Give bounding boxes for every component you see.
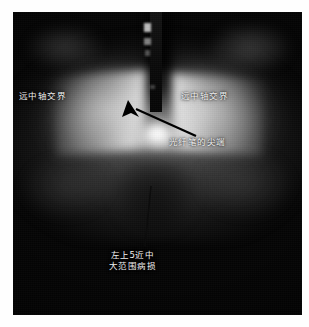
lower-left-haze (13, 157, 111, 224)
label-lesion-line1: 左上5近中 (109, 250, 156, 261)
lower-right-haze (198, 151, 302, 224)
probe-highlight-band-3 (145, 50, 150, 55)
label-fiber-pen-tip: 光纤笔的尖端 (169, 137, 225, 148)
transillumination-photo (13, 12, 302, 315)
figure-page: 远中轴交界 远中轴交界 光纤笔的尖端 左上5近中 大范围病损 (0, 0, 309, 327)
tissue-glow-layer (13, 12, 302, 315)
label-lesion: 左上5近中 大范围病损 (109, 250, 156, 272)
probe-highlight-band-2 (144, 38, 150, 45)
fiber-optic-probe (150, 12, 162, 112)
lesion-shadow (103, 148, 207, 251)
label-lesion-line2: 大范围病损 (109, 261, 156, 272)
probe-highlight-band-4 (150, 85, 155, 89)
label-distal-axial-junction-left: 远中轴交界 (19, 91, 66, 102)
probe-highlight-band-1 (144, 23, 152, 33)
label-distal-axial-junction-right: 远中轴交界 (181, 91, 228, 102)
